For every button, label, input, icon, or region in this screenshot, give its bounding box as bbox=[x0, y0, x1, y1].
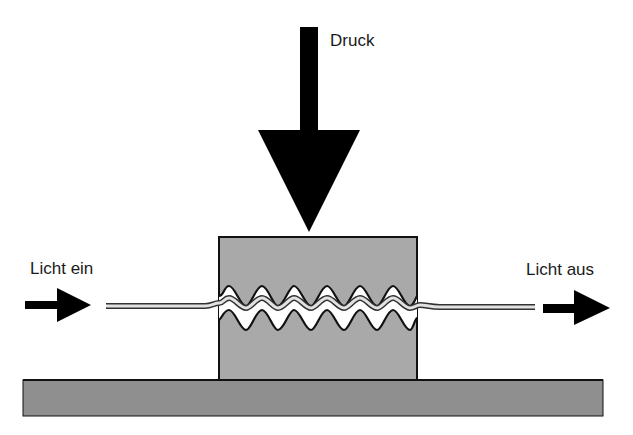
light-out-label: Licht aus bbox=[526, 260, 594, 280]
pressure-label: Druck bbox=[330, 31, 374, 51]
light-in-label: Licht ein bbox=[30, 259, 93, 279]
microbend-sensor-diagram bbox=[0, 0, 633, 435]
base-plate bbox=[23, 380, 603, 416]
pressure-arrow-icon bbox=[258, 27, 360, 232]
light-in-arrow-icon bbox=[25, 288, 91, 322]
light-out-arrow-icon bbox=[543, 290, 610, 325]
